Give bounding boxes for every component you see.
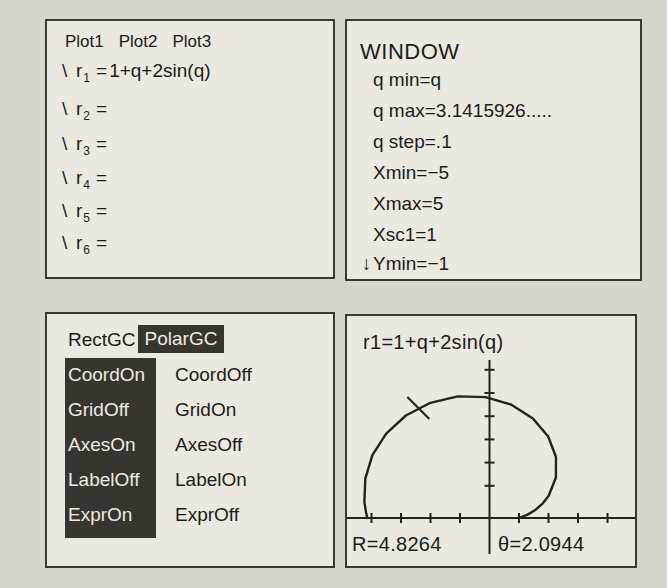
plot-tabs: Plot1 Plot2 Plot3 (65, 33, 211, 50)
format-option-gridon[interactable]: GridOn (175, 400, 236, 419)
equation-row[interactable]: \r5= (62, 201, 109, 220)
more-rows-arrow-icon: ↓ (360, 254, 373, 273)
more-rows-arrow-icon (360, 132, 373, 151)
more-rows-arrow-icon (360, 225, 373, 244)
plot1-tab[interactable]: Plot1 (65, 33, 104, 50)
window-setting-row[interactable]: q step=.1 (360, 132, 452, 151)
window-title: WINDOW (360, 41, 460, 63)
format-option-labeloff[interactable]: LabelOff (68, 470, 139, 489)
equation-var: r (76, 98, 82, 119)
equation-var: r (76, 133, 82, 154)
more-rows-arrow-icon (360, 101, 373, 120)
equation-row[interactable]: \r4= (62, 168, 109, 187)
equation-var: r (76, 232, 82, 253)
window-setting-text: q max=3.1415926..... (373, 101, 552, 120)
equation-row[interactable]: \r1=1+q+2sin(q) (62, 61, 211, 80)
format-option-axeson[interactable]: AxesOn (68, 435, 136, 454)
polar-equation-editor-screen: Plot1 Plot2 Plot3 \r1=1+q+2sin(q) \r2= \… (45, 19, 335, 279)
format-selected-column: CoordOnGridOffAxesOnLabelOffExprOn (65, 358, 156, 538)
equation-subscript: 3 (83, 144, 90, 158)
trace-theta-readout: θ=2.0944 (498, 533, 584, 555)
window-setting-row[interactable]: q max=3.1415926..... (360, 101, 552, 120)
graph-equation-label: r1=1+q+2sin(q) (363, 331, 503, 353)
equals-sign: = (96, 133, 107, 154)
window-setting-text: Xsc1=1 (373, 225, 437, 244)
line-style-slash-icon[interactable]: \ (62, 201, 71, 220)
equation-subscript: 4 (83, 178, 90, 192)
polar-curve (364, 396, 556, 518)
line-style-slash-icon[interactable]: \ (62, 168, 71, 187)
format-option-coordoff[interactable]: CoordOff (175, 365, 252, 384)
equation-subscript: 6 (83, 243, 90, 257)
format-header-row: RectGC PolarGC (68, 325, 224, 353)
format-option-rectgc[interactable]: RectGC (68, 330, 136, 349)
equation-row[interactable]: \r2= (62, 99, 109, 118)
window-setting-text: Xmin=−5 (373, 163, 449, 182)
equation-var: r (76, 200, 82, 221)
window-setting-row[interactable]: Xmin=−5 (360, 163, 449, 182)
window-setting-text: q step=.1 (373, 132, 452, 151)
equation-subscript: 1 (83, 71, 90, 85)
format-unselected-column: CoordOffGridOnAxesOffLabelOnExprOff (175, 358, 325, 538)
format-option-expron[interactable]: ExprOn (68, 505, 132, 524)
format-option-labelon[interactable]: LabelOn (175, 470, 247, 489)
format-option-exproff[interactable]: ExprOff (175, 505, 239, 524)
more-rows-arrow-icon (360, 70, 373, 89)
equals-sign: = (96, 167, 107, 188)
equals-sign: = (96, 232, 107, 253)
window-setting-text: Xmax=5 (373, 194, 443, 213)
window-setting-row[interactable]: Xsc1=1 (360, 225, 437, 244)
plot3-tab[interactable]: Plot3 (173, 33, 212, 50)
trace-cursor-mark (407, 397, 429, 419)
line-style-slash-icon[interactable]: \ (62, 134, 71, 153)
equals-sign: = (96, 200, 107, 221)
window-setting-row[interactable]: Xmax=5 (360, 194, 443, 213)
equals-sign: = (96, 98, 107, 119)
window-setting-text: q min=q (373, 70, 441, 89)
format-option-axesoff[interactable]: AxesOff (175, 435, 242, 454)
format-option-coordon[interactable]: CoordOn (68, 365, 145, 384)
more-rows-arrow-icon (360, 163, 373, 182)
equation-subscript: 2 (83, 109, 90, 123)
equation-var: r (76, 167, 82, 188)
graph-canvas: r1=1+q+2sin(q) R=4.8264 θ=2.0944 (347, 316, 635, 566)
window-setting-text: Ymin=−1 (373, 254, 449, 273)
line-style-slash-icon[interactable]: \ (62, 233, 71, 252)
window-settings-screen: WINDOW q min=q q max=3.1415926..... q st… (345, 19, 642, 281)
trace-r-readout: R=4.8264 (352, 533, 442, 555)
format-option-polargc[interactable]: PolarGC (138, 325, 225, 353)
plot2-tab[interactable]: Plot2 (119, 33, 158, 50)
equation-var: r (76, 60, 82, 81)
format-option-gridoff[interactable]: GridOff (68, 400, 129, 419)
window-setting-row[interactable]: q min=q (360, 70, 441, 89)
polar-graph-screen: r1=1+q+2sin(q) R=4.8264 θ=2.0944 (345, 314, 637, 568)
equation-row[interactable]: \r6= (62, 233, 109, 252)
equation-subscript: 5 (83, 211, 90, 225)
equation-row[interactable]: \r3= (62, 134, 109, 153)
equals-sign: = (96, 60, 107, 81)
more-rows-arrow-icon (360, 194, 373, 213)
line-style-slash-icon[interactable]: \ (62, 61, 71, 80)
window-setting-row[interactable]: ↓Ymin=−1 (360, 254, 449, 273)
equation-expression[interactable]: 1+q+2sin(q) (109, 60, 210, 81)
line-style-slash-icon[interactable]: \ (62, 99, 71, 118)
format-menu-screen: RectGC PolarGC CoordOnGridOffAxesOnLabel… (45, 312, 335, 568)
